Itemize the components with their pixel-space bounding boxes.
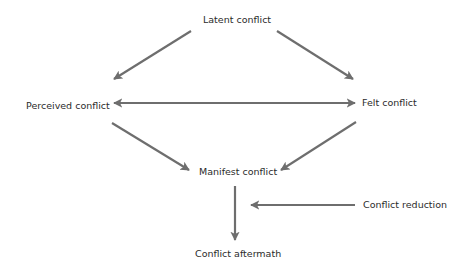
node-latent-conflict: Latent conflict <box>203 14 271 26</box>
arrows-layer <box>0 0 465 272</box>
node-conflict-reduction: Conflict reduction <box>363 199 447 211</box>
arrow-latent-to-perceived <box>114 31 191 79</box>
arrow-perceived-to-manifest <box>112 123 189 170</box>
node-felt-conflict: Felt conflict <box>362 97 417 109</box>
node-perceived-conflict: Perceived conflict <box>26 100 110 112</box>
arrow-felt-to-manifest <box>281 122 356 170</box>
node-manifest-conflict: Manifest conflict <box>199 166 277 178</box>
conflict-process-diagram: Latent conflict Perceived conflict Felt … <box>0 0 465 272</box>
node-conflict-aftermath: Conflict aftermath <box>195 248 281 260</box>
arrow-latent-to-felt <box>277 31 353 79</box>
